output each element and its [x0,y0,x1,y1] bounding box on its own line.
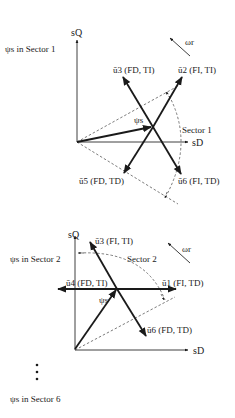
sector-2-title: ψs in Sector 2 [10,254,60,264]
sector-2-diagram: ψs in Sector 2 sQ sD ωr ψs Sector 2 ū3 (… [10,229,204,356]
flux-vector [75,290,116,349]
sector-boundary-upper [77,86,178,142]
flux-label: ψs [134,115,144,125]
sq-axis-label: sQ [68,229,80,240]
vector-label-u6: ū6 (FD, TD) [147,325,192,335]
vector-u5 [124,127,153,173]
ellipsis-dot [36,364,39,367]
sector-boundary-lower [77,142,178,204]
vector-label-u2: ū2 (FI, TI) [178,65,216,75]
flux-label: ψs [99,295,109,305]
rotation-label: ωr [182,244,191,254]
sq-axis-label: sQ [71,27,83,38]
sector-1-diagram: ψs in Sector 1 sQ sD ωr ψs Sector 1 ū3 (… [5,27,220,204]
vector-label-u5: ū5 (FD, TD) [79,176,124,186]
ellipsis-dot [36,371,39,374]
flux-vector [77,127,151,142]
sector-label: Sector 2 [127,254,157,264]
sector-label: Sector 1 [182,125,212,135]
rotation-label: ωr [185,37,194,47]
vector-u6 [117,289,146,336]
voltage-vector-diagram: ψs in Sector 1 sQ sD ωr ψs Sector 1 ū3 (… [0,0,235,418]
vector-u2 [153,77,182,127]
vector-label-u4: ū4 (FD, TI) [66,278,108,288]
vector-label-u3: ū3 (FI, TI) [95,236,133,246]
vector-label-u6: ū6 (FI, TD) [178,176,220,186]
vector-label-u3: ū3 (FD, TI) [113,65,155,75]
vector-u6 [153,127,181,174]
sector-6-title: ψs in Sector 6 [10,394,61,404]
continuation: ψs in Sector 6 [10,364,61,404]
ellipsis-dot [36,378,39,381]
sector-1-title: ψs in Sector 1 [5,44,55,54]
vector-label-u1: ū1 (FI, TD) [162,278,204,288]
sd-axis-label: sD [192,137,203,148]
sd-axis-label: sD [193,345,204,356]
sector-boundary [75,297,175,350]
